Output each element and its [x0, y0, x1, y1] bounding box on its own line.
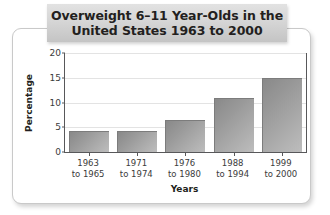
- x-axis-tick-label-line: to 2000: [257, 169, 305, 180]
- x-axis-tick-label-line: to 1965: [64, 169, 112, 180]
- plot-area: 05101520: [64, 53, 307, 153]
- bar: [214, 98, 254, 152]
- bar-slot: [113, 53, 161, 152]
- bar: [69, 131, 109, 152]
- y-axis-title-label: Percentage: [24, 74, 34, 132]
- x-axis-tick-mark: [185, 152, 186, 156]
- x-axis-title: Years: [64, 184, 305, 194]
- x-axis-tick-label: 1971to 1974: [112, 158, 160, 180]
- y-axis-tick-label: 0: [55, 147, 61, 157]
- bar-slot: [65, 53, 113, 152]
- x-axis-tick-label: 1963to 1965: [64, 158, 112, 180]
- y-axis-tick-label: 20: [50, 48, 61, 58]
- y-axis-tick-label: 10: [50, 98, 61, 108]
- bar: [165, 120, 205, 152]
- x-axis-tick-label: 1976to 1980: [160, 158, 208, 180]
- bar: [117, 131, 157, 152]
- x-axis-tick-label-line: 1971: [112, 158, 160, 169]
- bar-series: [65, 53, 306, 152]
- bar: [262, 78, 302, 152]
- x-axis-tick-label-line: to 1980: [160, 169, 208, 180]
- x-axis-tick-label-line: to 1994: [209, 169, 257, 180]
- x-axis-tick-mark: [282, 152, 283, 156]
- x-axis-tick-label-line: 1976: [160, 158, 208, 169]
- x-axis-tick-label: 1999to 2000: [257, 158, 305, 180]
- x-axis-tick-labels: 1963to 19651971to 19741976to 19801988to …: [64, 158, 305, 180]
- x-axis-tick-mark: [234, 152, 235, 156]
- chart-title-line-1: Overweight 6–11 Year-Olds in the: [51, 8, 283, 23]
- y-axis-tick-label: 15: [50, 73, 61, 83]
- x-axis-tick-label-line: to 1974: [112, 169, 160, 180]
- bar-slot: [161, 53, 209, 152]
- y-axis-tick-label: 5: [55, 122, 61, 132]
- chart-title-banner: Overweight 6–11 Year-Olds in the United …: [47, 4, 287, 42]
- bar-slot: [210, 53, 258, 152]
- x-axis-tick-mark: [137, 152, 138, 156]
- bar-slot: [258, 53, 306, 152]
- x-axis-tick-mark: [89, 152, 90, 156]
- x-axis-tick-label-line: 1999: [257, 158, 305, 169]
- chart-title-line-2: United States 1963 to 2000: [72, 23, 263, 38]
- y-axis-title: Percentage: [22, 68, 36, 138]
- x-axis-tick-label-line: 1963: [64, 158, 112, 169]
- x-axis-tick-label: 1988to 1994: [209, 158, 257, 180]
- x-axis-tick-label-line: 1988: [209, 158, 257, 169]
